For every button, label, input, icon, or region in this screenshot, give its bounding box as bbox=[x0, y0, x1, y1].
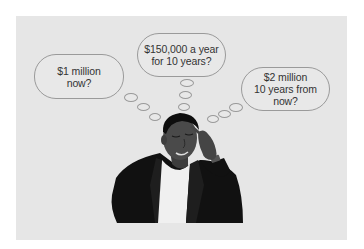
thinking-man-illustration bbox=[0, 0, 364, 249]
hand bbox=[198, 130, 217, 160]
